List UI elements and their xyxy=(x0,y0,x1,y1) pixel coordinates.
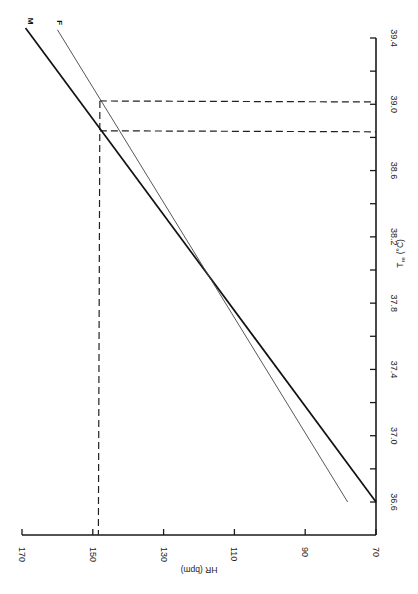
t-tick-label: 36.6 xyxy=(389,493,399,511)
axis-ticks xyxy=(22,38,376,535)
hr-tick-label: 150 xyxy=(88,547,98,562)
axes xyxy=(22,38,376,535)
t-axis-title: Tre(°C) xyxy=(395,239,406,268)
t-tick-label: 37.0 xyxy=(389,427,399,445)
series-line-m xyxy=(26,28,376,502)
temperature-reference-dash-f xyxy=(100,101,376,102)
t-tick-label: 37.8 xyxy=(389,294,399,312)
temperature-reference-dash-m xyxy=(100,131,376,132)
data-series xyxy=(26,28,376,502)
t-tick-label: 39.0 xyxy=(389,96,399,114)
series-label-m: M xyxy=(26,18,35,25)
series-line-f xyxy=(57,30,347,502)
t-tick-label: 37.4 xyxy=(389,361,399,379)
hr-tick-label: 170 xyxy=(17,547,27,562)
series-label-f: F xyxy=(55,20,64,25)
hr-reference-dash xyxy=(98,101,100,535)
hr-tick-label: 90 xyxy=(300,547,310,557)
hr-tick-label: 130 xyxy=(159,547,169,562)
reference-dashed-lines xyxy=(98,101,376,535)
hr-axis-title: HR (bpm) xyxy=(180,565,217,575)
chart-canvas: 170150130110907036.637.037.437.838.238.6… xyxy=(0,0,418,594)
t-tick-label: 38.6 xyxy=(389,162,399,180)
hr-tick-label: 70 xyxy=(371,547,381,557)
t-tick-label: 39.4 xyxy=(389,29,399,47)
hr-tick-label: 110 xyxy=(229,547,239,561)
